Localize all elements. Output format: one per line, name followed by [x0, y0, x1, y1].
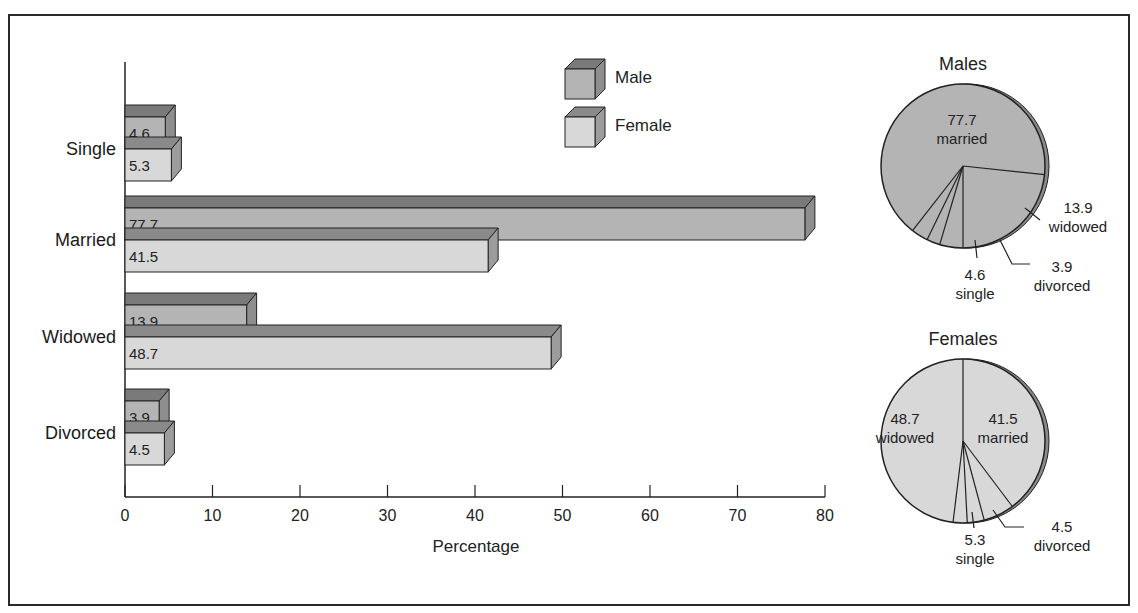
category-label: Married	[55, 230, 116, 250]
x-tick-label: 70	[729, 507, 747, 524]
x-tick-label: 60	[641, 507, 659, 524]
legend: MaleFemale	[565, 59, 672, 147]
pie-category-label: widowed	[875, 429, 934, 446]
bar-female: 4.5	[125, 421, 174, 465]
pie-value-label: 13.9	[1063, 199, 1092, 216]
x-tick-label: 50	[554, 507, 572, 524]
category-label: Divorced	[45, 423, 116, 443]
pie-value-label: 4.6	[965, 266, 986, 283]
category-label: Single	[66, 139, 116, 159]
bar-chart: Single4.65.3Married77.741.5Widowed13.948…	[42, 62, 815, 497]
pie-value-label: 41.5	[988, 410, 1017, 427]
x-tick-label: 0	[121, 507, 130, 524]
value-label: 48.7	[129, 345, 158, 362]
value-label: 41.5	[129, 248, 158, 265]
bar-female: 48.7	[125, 325, 561, 369]
x-axis: 01020304050607080Percentage	[121, 485, 834, 556]
x-tick-label: 40	[466, 507, 484, 524]
value-label: 4.5	[129, 441, 150, 458]
marital-status-chart: Single4.65.3Married77.741.5Widowed13.948…	[0, 0, 1138, 613]
females-pie-chart: Females41.5married4.5divorced5.3single48…	[875, 329, 1091, 567]
pie-value-label: 4.5	[1052, 518, 1073, 535]
pie-title: Males	[939, 54, 987, 74]
pie-value-label: 77.7	[947, 111, 976, 128]
bar-female: 5.3	[125, 137, 181, 181]
bar-female: 41.5	[125, 228, 498, 272]
x-tick-label: 10	[204, 507, 222, 524]
legend-label: Male	[615, 68, 652, 87]
pie-value-label: 5.3	[965, 531, 986, 548]
x-axis-title: Percentage	[433, 537, 520, 556]
pie-category-label: single	[955, 550, 994, 567]
males-pie-chart: Males77.7married13.9widowed3.9divorced4.…	[881, 54, 1107, 302]
value-label: 5.3	[129, 157, 150, 174]
pie-category-label: single	[955, 285, 994, 302]
bar-group-single: Single4.65.3	[66, 105, 181, 181]
pie-value-label: 48.7	[890, 410, 919, 427]
pie-value-label: 3.9	[1052, 258, 1073, 275]
bar-group-married: Married77.741.5	[55, 196, 815, 272]
legend-label: Female	[615, 116, 672, 135]
pie-title: Females	[928, 329, 997, 349]
category-label: Widowed	[42, 327, 116, 347]
pie-category-label: married	[937, 130, 988, 147]
bar-group-divorced: Divorced3.94.5	[45, 389, 174, 465]
pie-category-label: widowed	[1048, 218, 1107, 235]
legend-male-swatch: Male	[565, 59, 652, 99]
pie-category-label: divorced	[1034, 277, 1091, 294]
x-tick-label: 30	[379, 507, 397, 524]
x-tick-label: 80	[816, 507, 834, 524]
pie-category-label: married	[978, 429, 1029, 446]
bar-group-widowed: Widowed13.948.7	[42, 293, 561, 369]
x-tick-label: 20	[291, 507, 309, 524]
pie-category-label: divorced	[1034, 537, 1091, 554]
legend-female-swatch: Female	[565, 107, 672, 147]
